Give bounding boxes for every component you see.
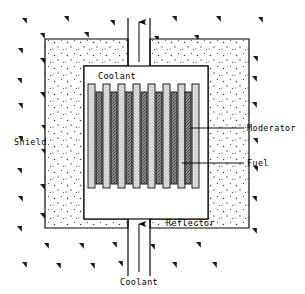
fuel-rod — [96, 92, 102, 184]
moderator-rod — [103, 84, 110, 188]
fuel-rod — [171, 92, 177, 184]
reactor-schematic-svg: Shield Coolant Moderator Fuel Reflector … — [0, 0, 305, 294]
label-shield: Shield — [14, 137, 47, 147]
moderator-rod — [163, 84, 170, 188]
moderator-rod — [88, 84, 95, 188]
moderator-rod — [133, 84, 140, 188]
label-moderator: Moderator — [247, 123, 296, 133]
moderator-rod — [148, 84, 155, 188]
fuel-rod — [185, 92, 191, 184]
moderator-rod — [178, 84, 185, 188]
label-coolant-top: Coolant — [98, 71, 136, 81]
fuel-rod — [156, 92, 162, 184]
label-coolant-bottom: Coolant — [120, 277, 158, 287]
fuel-rod — [141, 92, 147, 184]
reactor-diagram: Shield Coolant Moderator Fuel Reflector … — [0, 0, 305, 294]
moderator-rod — [118, 84, 125, 188]
label-fuel: Fuel — [247, 158, 269, 168]
label-reflector: Reflector — [166, 218, 215, 228]
fuel-rod — [111, 92, 117, 184]
moderator-rod — [192, 84, 199, 188]
fuel-rod — [126, 92, 132, 184]
